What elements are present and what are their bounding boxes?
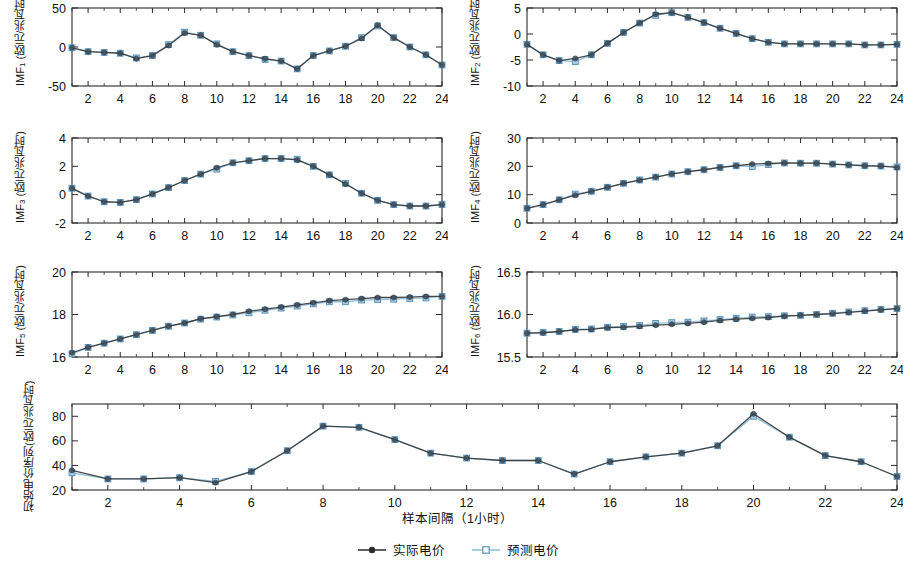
actual-marker: [734, 317, 739, 322]
actual-marker: [734, 31, 739, 36]
y-tick-label: 0: [59, 188, 66, 202]
axes-frame: [527, 8, 897, 86]
x-tick-label: 6: [604, 92, 611, 106]
actual-marker: [814, 41, 819, 46]
y-axis-label-imf6: IMF6 (欧元/兆瓦时): [469, 272, 484, 357]
actual-marker: [359, 191, 364, 196]
x-tick-label: 12: [242, 229, 256, 243]
y-axis-label-subscript: 6: [473, 334, 482, 338]
x-tick-label: 2: [85, 229, 92, 243]
chart-panel-imf6: 2468101214161820222415.516.016.5: [485, 266, 903, 383]
actual-marker: [327, 48, 332, 53]
actual-marker: [814, 161, 819, 166]
axes-frame: [72, 138, 442, 223]
legend-item-predicted-series[interactable]: 预测电价: [471, 540, 559, 559]
y-tick-label: 18: [52, 308, 66, 322]
x-tick-label: 22: [403, 363, 417, 377]
actual-marker: [134, 197, 139, 202]
y-tick-label: 2: [59, 160, 66, 174]
chart-panel-imf5: 24681012141618202224161820: [30, 266, 448, 383]
actual-marker: [141, 476, 146, 481]
figure-root: 24681012141618202224-50050IMF1 (欧元/兆瓦时)2…: [0, 0, 915, 564]
actual-marker: [213, 480, 218, 485]
x-tick-label: 14: [729, 229, 743, 243]
x-tick-label: 2: [85, 92, 92, 106]
x-tick-label: 6: [149, 363, 156, 377]
x-tick-label: 4: [117, 363, 124, 377]
legend-item-actual-series[interactable]: 实际电价: [357, 540, 445, 559]
x-tick-label: 18: [794, 229, 808, 243]
actual-marker: [557, 58, 562, 63]
x-tick-label: 2: [540, 229, 547, 243]
actual-marker: [878, 307, 883, 312]
actual-marker: [830, 162, 835, 167]
actual-marker: [589, 327, 594, 332]
actual-marker: [391, 295, 396, 300]
actual-marker: [263, 56, 268, 61]
x-tick-label: 4: [572, 92, 579, 106]
actual-marker: [500, 458, 505, 463]
actual-line: [72, 159, 442, 206]
x-tick-label: 10: [665, 363, 679, 377]
actual-marker: [621, 181, 626, 186]
y-axis-label-subscript: 3: [18, 200, 27, 204]
actual-marker: [166, 43, 171, 48]
actual-marker: [118, 200, 123, 205]
x-tick-label: 12: [242, 92, 256, 106]
axes-frame: [72, 8, 442, 86]
y-axis-label-base: IMF: [14, 67, 26, 86]
actual-marker: [343, 297, 348, 302]
actual-marker: [679, 451, 684, 456]
y-tick-label: 16: [52, 351, 66, 365]
x-tick-label: 18: [794, 363, 808, 377]
actual-marker: [782, 160, 787, 165]
y-tick-label: 16.5: [497, 266, 521, 280]
actual-marker: [830, 41, 835, 46]
x-tick-label: 8: [181, 363, 188, 377]
x-tick-label: 4: [572, 229, 579, 243]
actual-marker: [214, 165, 219, 170]
y-axis-label-unit: (欧元/兆瓦时): [14, 0, 26, 63]
actual-marker: [263, 307, 268, 312]
x-tick-label: 20: [371, 92, 385, 106]
plot-area-original: 2468101214161820222420406080: [30, 398, 903, 516]
actual-marker: [541, 202, 546, 207]
x-tick-label: 18: [794, 92, 808, 106]
actual-marker: [407, 295, 412, 300]
plot-area-imf1: 24681012141618202224-50050: [30, 2, 448, 112]
predicted-line: [527, 13, 897, 62]
x-tick-label: 22: [403, 92, 417, 106]
actual-marker: [589, 52, 594, 57]
chart-panel-imf1: 24681012141618202224-50050: [30, 2, 448, 112]
y-tick-label: 20: [507, 160, 521, 174]
actual-marker: [356, 425, 361, 430]
x-tick-label: 8: [636, 229, 643, 243]
actual-marker: [407, 45, 412, 50]
actual-marker: [653, 12, 658, 17]
predicted-line: [72, 296, 442, 353]
actual-marker: [653, 175, 658, 180]
actual-marker: [862, 309, 867, 314]
x-tick-label: 16: [306, 363, 320, 377]
actual-marker: [814, 312, 819, 317]
actual-marker: [536, 458, 541, 463]
x-tick-label: 18: [339, 229, 353, 243]
x-tick-label: 18: [339, 363, 353, 377]
actual-marker: [878, 164, 883, 169]
y-tick-label: 0: [514, 28, 521, 42]
x-tick-label: 20: [826, 229, 840, 243]
actual-marker: [669, 322, 674, 327]
actual-marker: [798, 313, 803, 318]
x-tick-label: 10: [665, 229, 679, 243]
legend-label: 实际电价: [393, 540, 445, 559]
actual-marker: [423, 294, 428, 299]
y-tick-label: -50: [48, 80, 66, 94]
actual-marker: [105, 476, 110, 481]
actual-marker: [166, 185, 171, 190]
y-axis-label-base: IMF: [469, 67, 481, 86]
y-tick-label: 40: [52, 459, 66, 473]
x-tick-label: 14: [729, 92, 743, 106]
legend: 实际电价预测电价: [0, 540, 915, 559]
y-axis-label-base: IMF: [14, 338, 26, 357]
x-tick-label: 8: [636, 92, 643, 106]
